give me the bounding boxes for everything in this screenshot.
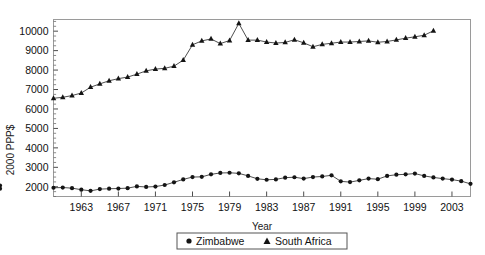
y-axis-tick-labels: 2000300040005000600070008000900010000 xyxy=(19,25,48,193)
data-point-marker xyxy=(366,38,371,43)
data-point-marker xyxy=(107,187,111,191)
data-point-marker xyxy=(88,189,92,193)
y-tick-label: 2000 xyxy=(25,181,49,193)
data-point-marker xyxy=(274,177,278,181)
chart-figure: 2000300040005000600070008000900010000 19… xyxy=(0,0,485,255)
data-point-marker xyxy=(171,63,176,68)
data-point-marker xyxy=(218,171,222,175)
data-point-marker xyxy=(292,37,297,42)
x-tick-label: 1963 xyxy=(70,201,94,213)
data-point-marker xyxy=(366,177,370,181)
legend-label-zimbabwe: Zimbabwe xyxy=(196,235,245,247)
x-tick-label: 2003 xyxy=(440,201,464,213)
data-point-marker xyxy=(61,185,65,189)
data-point-marker xyxy=(394,173,398,177)
chart-legend: ZimbabweSouth Africa xyxy=(177,233,347,249)
data-point-marker xyxy=(348,180,352,184)
data-point-marker xyxy=(181,177,185,181)
data-point-marker xyxy=(209,172,213,176)
data-point-marker xyxy=(227,171,231,175)
line-chart-svg: 2000300040005000600070008000900010000 19… xyxy=(0,0,485,255)
data-point-marker xyxy=(431,175,435,179)
data-point-marker xyxy=(200,175,204,179)
data-point-marker xyxy=(227,37,232,42)
data-point-marker xyxy=(385,174,389,178)
x-tick-label: 1971 xyxy=(144,201,168,213)
data-point-marker xyxy=(79,90,84,95)
x-tick-label: 1967 xyxy=(107,201,131,213)
y-tick-label: 10000 xyxy=(19,25,48,37)
data-point-marker xyxy=(116,186,120,190)
data-point-marker xyxy=(79,188,83,192)
plot-frame xyxy=(54,20,471,197)
series-south-africa xyxy=(51,20,436,100)
x-tick-label: 1983 xyxy=(255,201,279,213)
data-point-marker xyxy=(357,178,361,182)
data-point-marker xyxy=(422,174,426,178)
x-tick-label: 1975 xyxy=(181,201,205,213)
x-axis-tick-labels: 1963196719711975197919831987199119951999… xyxy=(70,201,464,213)
data-point-marker xyxy=(459,179,463,183)
data-point-marker xyxy=(172,180,176,184)
y-tick-label: 8000 xyxy=(25,64,49,76)
data-point-marker xyxy=(236,20,241,25)
data-point-marker xyxy=(153,184,157,188)
data-point-marker xyxy=(208,36,213,41)
y-axis-title: 2000 PPP$ xyxy=(5,124,16,175)
data-point-marker xyxy=(245,37,250,42)
y-axis-ticks xyxy=(54,21,59,196)
data-point-marker xyxy=(246,174,250,178)
y-tick-label: 5000 xyxy=(25,122,49,134)
data-point-marker xyxy=(468,182,472,186)
x-axis-title: Year xyxy=(252,221,273,232)
x-tick-label: 1979 xyxy=(218,201,242,213)
data-point-marker xyxy=(163,183,167,187)
data-point-marker xyxy=(292,175,296,179)
data-point-marker xyxy=(126,186,130,190)
data-point-marker xyxy=(265,178,269,182)
legend-label-south-africa: South Africa xyxy=(275,235,332,247)
data-series xyxy=(0,20,473,193)
x-tick-label: 1999 xyxy=(403,201,427,213)
data-point-marker xyxy=(329,173,333,177)
data-point-marker xyxy=(431,28,436,33)
data-point-marker xyxy=(347,39,352,44)
data-point-marker xyxy=(320,174,324,178)
legend-marker-circle xyxy=(186,238,191,243)
data-point-marker xyxy=(98,187,102,191)
x-tick-label: 1995 xyxy=(366,201,390,213)
x-axis-ticks xyxy=(81,192,452,197)
y-tick-label: 3000 xyxy=(25,161,49,173)
y-tick-label: 6000 xyxy=(25,103,49,115)
data-point-marker xyxy=(441,177,445,181)
y-tick-label: 4000 xyxy=(25,142,49,154)
data-point-marker xyxy=(70,186,74,190)
data-point-marker xyxy=(357,38,362,43)
data-point-marker xyxy=(190,175,194,179)
x-tick-label: 1987 xyxy=(292,201,316,213)
data-point-marker xyxy=(450,177,454,181)
x-tick-label: 1991 xyxy=(329,201,353,213)
data-point-marker xyxy=(0,187,2,191)
data-point-marker xyxy=(144,185,148,189)
data-point-marker xyxy=(311,175,315,179)
data-point-marker xyxy=(51,186,55,190)
data-point-marker xyxy=(237,171,241,175)
y-tick-label: 9000 xyxy=(25,44,49,56)
data-point-marker xyxy=(135,184,139,188)
series-zimbabwe xyxy=(0,171,473,193)
data-point-marker xyxy=(255,37,260,42)
data-point-marker xyxy=(302,177,306,181)
y-tick-label: 7000 xyxy=(25,83,49,95)
data-point-marker xyxy=(413,171,417,175)
data-point-marker xyxy=(404,172,408,176)
data-point-marker xyxy=(339,179,343,183)
data-point-marker xyxy=(376,177,380,181)
data-point-marker xyxy=(283,176,287,180)
data-point-marker xyxy=(338,39,343,44)
data-point-marker xyxy=(255,177,259,181)
